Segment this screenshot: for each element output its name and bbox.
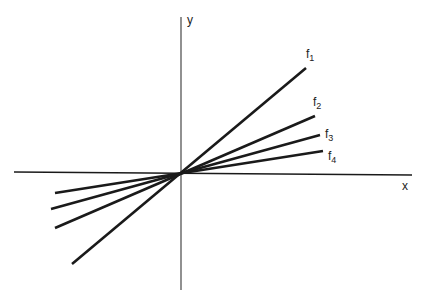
label-f4: f4	[328, 150, 336, 165]
label-f3: f3	[325, 128, 333, 143]
x-axis-label: x	[402, 180, 408, 192]
diagram-svg	[0, 0, 425, 305]
diagram-canvas: y x f1 f2 f3 f4	[0, 0, 425, 305]
y-axis-label: y	[187, 14, 193, 26]
x-axis	[14, 172, 412, 175]
line-f1	[72, 68, 306, 264]
label-f1: f1	[306, 48, 314, 63]
label-f2: f2	[313, 96, 321, 111]
